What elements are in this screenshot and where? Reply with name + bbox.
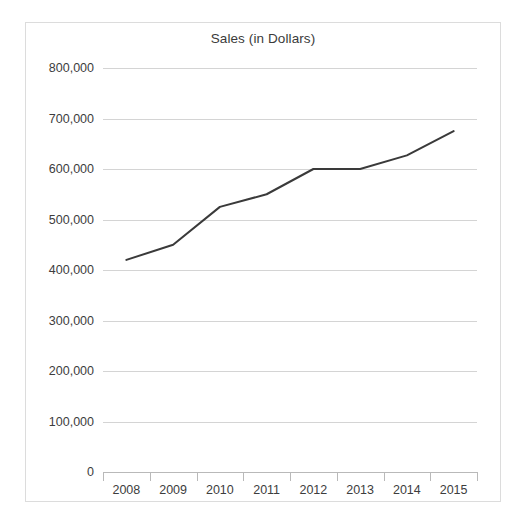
x-axis-tick-label: 2011: [253, 483, 280, 497]
x-axis-tick-label: 2008: [112, 483, 140, 497]
x-axis-tick-mark: [384, 472, 385, 481]
plot-area: 0100,000200,000300,000400,000500,000600,…: [103, 68, 477, 472]
y-axis-tick-label: 100,000: [49, 415, 94, 429]
chart-title: Sales (in Dollars): [26, 31, 500, 46]
y-axis-tick-label: 200,000: [49, 364, 94, 378]
x-axis-tick-mark: [290, 472, 291, 481]
x-axis-tick-mark: [103, 472, 104, 481]
x-axis-tick-label: 2015: [440, 483, 468, 497]
x-axis-tick-mark: [150, 472, 151, 481]
y-axis-tick-label: 700,000: [49, 112, 94, 126]
x-axis-tick-label: 2010: [206, 483, 234, 497]
chart-figure: Sales (in Dollars) 0100,000200,000300,00…: [25, 22, 501, 502]
x-axis-tick-label: 2009: [159, 483, 187, 497]
y-axis-tick-label: 500,000: [49, 213, 94, 227]
x-axis-tick-label: 2012: [299, 483, 327, 497]
x-axis-tick-mark: [197, 472, 198, 481]
y-axis-tick-label: 0: [87, 465, 94, 479]
x-axis-tick-mark: [430, 472, 431, 481]
x-axis-tick-label: 2013: [346, 483, 374, 497]
x-axis-tick-mark: [477, 472, 478, 481]
y-axis-tick-label: 800,000: [49, 61, 94, 75]
y-axis-tick-label: 400,000: [49, 263, 94, 277]
x-axis-tick-label: 2014: [393, 483, 421, 497]
x-axis-tick-mark: [243, 472, 244, 481]
x-axis-tick-mark: [337, 472, 338, 481]
y-axis-tick-label: 600,000: [49, 162, 94, 176]
sales-line-path: [126, 131, 453, 260]
y-axis-tick-label: 300,000: [49, 314, 94, 328]
sales-line-series: [103, 68, 477, 472]
